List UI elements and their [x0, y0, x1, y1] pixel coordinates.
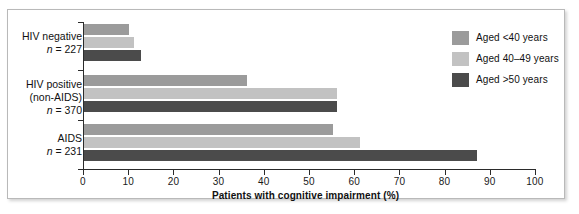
category-label-line: (non-AIDS) — [0, 91, 82, 104]
category-label-line: n = 370 — [0, 104, 82, 117]
x-tick — [219, 170, 220, 175]
x-tick-label: 80 — [425, 176, 465, 187]
category-label-line: n = 227 — [0, 43, 82, 56]
x-tick — [173, 170, 174, 175]
category-label: HIV negativen = 227 — [0, 30, 82, 56]
category-label-line: HIV positive — [0, 78, 82, 91]
legend-swatch-aged-40-49 — [452, 52, 469, 66]
x-tick-label: 20 — [153, 176, 193, 187]
x-tick — [264, 170, 265, 175]
x-tick — [535, 170, 536, 175]
legend-label-aged-40-49: Aged 40–49 years — [476, 53, 559, 64]
category-label-line: HIV negative — [0, 30, 82, 43]
y-tick — [78, 22, 84, 23]
x-tick — [399, 170, 400, 175]
x-tick-label: 100 — [515, 176, 555, 187]
category-label: HIV positive(non-AIDS)n = 370 — [0, 78, 82, 117]
bar — [84, 37, 134, 48]
x-tick — [490, 170, 491, 175]
plot-area: 0102030405060708090100 Patients with cog… — [0, 0, 579, 214]
legend-swatch-aged-over-50 — [452, 73, 469, 87]
x-tick — [354, 170, 355, 175]
x-axis-label: Patients with cognitive impairment (%) — [0, 190, 579, 201]
x-tick-label: 60 — [334, 176, 374, 187]
y-tick — [78, 120, 84, 121]
chart-legend: Aged <40 years Aged 40–49 years Aged >50… — [452, 27, 559, 90]
bar — [84, 24, 129, 35]
legend-label-aged-under-40: Aged <40 years — [476, 32, 548, 43]
bar — [84, 50, 141, 61]
x-tick-label: 90 — [470, 176, 510, 187]
x-tick-label: 70 — [379, 176, 419, 187]
x-tick — [445, 170, 446, 175]
category-label-line: AIDS — [0, 132, 82, 145]
bar — [84, 124, 333, 135]
legend-swatch-aged-under-40 — [452, 31, 469, 45]
chart-figure: 0102030405060708090100 Patients with cog… — [0, 0, 579, 214]
x-tick-label: 50 — [289, 176, 329, 187]
bar — [84, 137, 360, 148]
legend-item: Aged 40–49 years — [452, 48, 559, 69]
x-tick-label: 10 — [108, 176, 148, 187]
category-label-line: n = 231 — [0, 145, 82, 158]
bar — [84, 88, 337, 99]
x-tick-label: 30 — [199, 176, 239, 187]
bar — [84, 75, 247, 86]
legend-label-aged-over-50: Aged >50 years — [476, 74, 548, 85]
y-tick — [78, 70, 84, 71]
category-label: AIDSn = 231 — [0, 132, 82, 158]
x-tick — [309, 170, 310, 175]
x-tick-label: 40 — [244, 176, 284, 187]
x-tick — [83, 170, 84, 175]
bar — [84, 150, 477, 161]
bar — [84, 101, 337, 112]
x-tick-label: 0 — [63, 176, 103, 187]
legend-item: Aged <40 years — [452, 27, 559, 48]
legend-item: Aged >50 years — [452, 69, 559, 90]
x-tick — [128, 170, 129, 175]
